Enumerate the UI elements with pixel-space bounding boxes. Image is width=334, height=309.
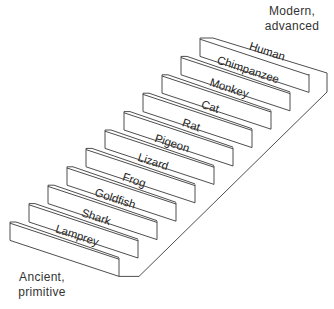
ancient-primitive-label: Ancient, primitive — [6, 270, 78, 300]
ancient-label-line2: primitive — [6, 285, 78, 300]
step-label-human: Human — [248, 40, 287, 63]
staircase-diagram: LampreySharkGoldfishFrogLizardPigeonRatC… — [0, 0, 334, 309]
step-label-goldfish: Goldfish — [93, 186, 137, 211]
step-label-lizard: Lizard — [136, 151, 170, 172]
step-label-shark: Shark — [80, 206, 113, 227]
ancient-label-line1: Ancient, — [6, 270, 78, 285]
step-riser-bottom-edge — [162, 93, 271, 129]
step-label-monkey: Monkey — [208, 76, 250, 100]
step-riser-bottom-edge — [29, 222, 138, 258]
